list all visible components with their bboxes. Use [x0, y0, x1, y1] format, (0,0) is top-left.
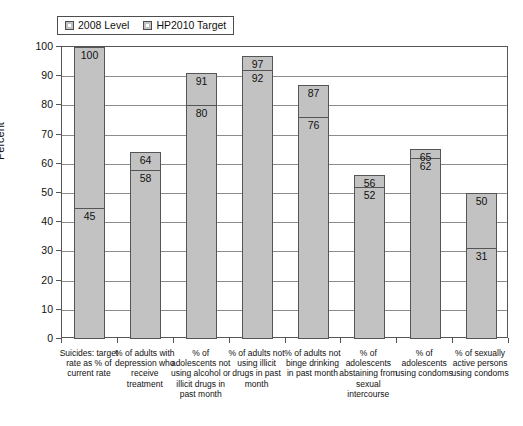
y-tick-label: 90: [19, 70, 53, 80]
y-tick-label: 50: [19, 187, 53, 197]
bar-value-hp2010-target: 58: [130, 173, 161, 184]
x-tick-mark: [340, 338, 341, 343]
x-category-label: % of adults with depression who receive …: [115, 348, 175, 389]
bar-value-hp2010-target: 45: [74, 211, 105, 222]
gridline: [62, 135, 507, 136]
y-tick-label: 60: [19, 158, 53, 168]
bar-chart: 2008 Level HP2010 Target Percent 1009080…: [0, 0, 523, 426]
bar-value-hp2010-target: 80: [186, 108, 217, 119]
y-axis-title: Percent: [0, 122, 6, 160]
bar-series-hp2010-target: [130, 170, 161, 339]
y-tick-label: 70: [19, 129, 53, 139]
bar-value-2008-level: 87: [298, 88, 329, 99]
bar-value-hp2010-target: 92: [242, 73, 273, 84]
x-category-label: Suicides: target rate as % of current ra…: [59, 348, 119, 379]
y-tick-label: 40: [19, 216, 53, 226]
chart-legend: 2008 Level HP2010 Target: [57, 16, 234, 35]
gridline: [62, 76, 507, 77]
bar-value-2008-level: 64: [130, 155, 161, 166]
bar-value-2008-level: 56: [354, 178, 385, 189]
bar-series-hp2010-target: [242, 70, 273, 339]
bar-value-hp2010-target: 31: [466, 251, 497, 262]
y-tick-label: 80: [19, 99, 53, 109]
bar-value-hp2010-target: 52: [354, 190, 385, 201]
x-tick-mark: [229, 338, 230, 343]
x-category-label: % of adults not using illicit drugs in p…: [227, 348, 287, 389]
bar-value-hp2010-target: 62: [410, 161, 441, 172]
bar-series-hp2010-target: [410, 158, 441, 339]
y-tick-label: 20: [19, 275, 53, 285]
x-tick-mark: [508, 338, 509, 343]
x-tick-mark: [452, 338, 453, 343]
bar-value-hp2010-target: 76: [298, 120, 329, 131]
bar-series-hp2010-target: [74, 208, 105, 339]
bar-series-hp2010-target: [298, 117, 329, 339]
y-tick-label: 100: [19, 41, 53, 51]
bar-series-hp2010-target: [186, 105, 217, 339]
y-tick-label: 10: [19, 304, 53, 314]
x-category-label: % of adolescents not using alcohol or il…: [171, 348, 231, 399]
bar-value-2008-level: 50: [466, 196, 497, 207]
x-category-label: % of sexually active persons using condo…: [450, 348, 510, 379]
legend-entry-hp2010-target: HP2010 Target: [143, 20, 226, 31]
x-category-label: % of adolescents abstaining from sexual …: [338, 348, 398, 399]
x-tick-mark: [285, 338, 286, 343]
bar-value-2008-level: 100: [74, 50, 105, 61]
y-tick-label: 0: [19, 333, 53, 343]
x-tick-mark: [396, 338, 397, 343]
x-tick-mark: [117, 338, 118, 343]
x-category-label: % of adults not binge drinking in past m…: [283, 348, 343, 379]
x-category-label: % of adolescents using condoms: [394, 348, 454, 379]
legend-swatch-icon: [143, 21, 152, 30]
legend-swatch-icon: [65, 21, 74, 30]
legend-entry-2008-level: 2008 Level: [65, 20, 129, 31]
gridline: [62, 105, 507, 106]
plot-area: 100456458918097928776565265625031: [61, 46, 508, 338]
x-tick-mark: [61, 338, 62, 343]
bar-series-hp2010-target: [354, 187, 385, 339]
legend-label-2008-level: 2008 Level: [78, 20, 129, 31]
y-tick-label: 30: [19, 245, 53, 255]
legend-label-hp2010-target: HP2010 Target: [156, 20, 226, 31]
x-tick-mark: [173, 338, 174, 343]
bar-value-2008-level: 97: [242, 59, 273, 70]
bar-value-2008-level: 91: [186, 76, 217, 87]
